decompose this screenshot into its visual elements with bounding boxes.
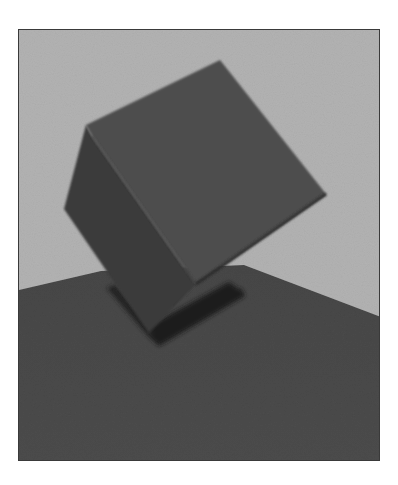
image-frame [18, 29, 380, 461]
cube-scene [19, 30, 380, 461]
image-description: Grayscale rendering of a tilted cube bal… [0, 0, 1, 1]
page: Grayscale rendering of a tilted cube bal… [0, 0, 398, 485]
